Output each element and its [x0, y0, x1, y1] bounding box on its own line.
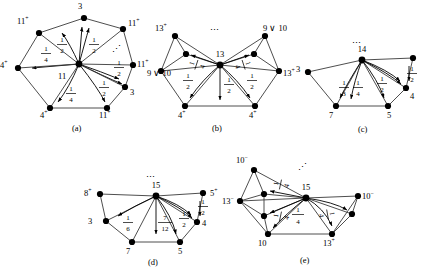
svg-text:4: 4 [317, 213, 326, 218]
hub-vertex-node [76, 61, 83, 68]
vertex-node [194, 219, 200, 225]
vertex-node [36, 30, 42, 36]
panel-b-vertex-label-2: 9 ∨ 10 [147, 68, 171, 77]
panel-d-hub-label: 15 [152, 180, 161, 190]
vertex-node [130, 62, 136, 68]
panel-a-hub-label: 11 [58, 71, 66, 81]
svg-text:12: 12 [162, 225, 170, 233]
svg-text:4: 4 [283, 183, 292, 189]
panel-a-vertex-label-4: 3 [130, 87, 134, 96]
svg-text:4: 4 [356, 90, 360, 98]
svg-text:4: 4 [44, 56, 48, 64]
panel-b-vertex-label-5: 4+ [249, 110, 257, 119]
vertex-node [97, 191, 103, 197]
svg-text:1: 1 [186, 72, 190, 80]
svg-text:4: 4 [296, 218, 300, 226]
svg-text:1: 1 [60, 36, 64, 44]
panel-d-fraction-2: 1 6 [123, 214, 133, 233]
vertex-node [183, 51, 189, 57]
panel-e-ellipsis: ⋰ [298, 162, 308, 172]
svg-text:4: 4 [69, 96, 73, 104]
vertex-node [265, 231, 271, 237]
panel-b-vertex-label-3: 13+ [283, 68, 295, 77]
panel-e-vertex-label-4: 13+ [323, 238, 335, 247]
panel-d-vertex-label-0: 8+ [84, 188, 92, 197]
vertex-node [15, 65, 21, 71]
panel-d: ⋯ 15 1 2 1 6 7 12 1 2 [84, 172, 220, 264]
svg-text:2: 2 [102, 90, 106, 98]
hub-vertex-node [153, 193, 160, 200]
svg-text:2: 2 [182, 221, 186, 229]
panel-b-vertex-label-4: 4+ [178, 110, 186, 119]
panel-a-vertex-label-0: 3 [78, 1, 82, 10]
vertex-node [47, 105, 53, 111]
panel-b-hub-label: 13 [216, 49, 225, 59]
svg-text:3: 3 [342, 90, 346, 98]
svg-text:4: 4 [233, 64, 242, 70]
svg-text:2: 2 [117, 70, 121, 78]
vertex-node [237, 198, 243, 204]
svg-text:1: 1 [410, 65, 414, 73]
svg-text:1: 1 [272, 213, 281, 219]
panel-c-fraction-2: 1 3 [339, 79, 349, 98]
panel-a-vertex-label-1: 11+ [17, 16, 28, 25]
vertex-node [129, 239, 135, 245]
vertex-node [251, 167, 257, 173]
svg-text:1: 1 [182, 210, 186, 218]
panel-e-vertex-label-0: 10− [236, 155, 248, 164]
panel-a-caption: (a) [72, 124, 81, 133]
panel-b-vertex-label-0: 13+ [155, 23, 167, 32]
panel-c-vertex-label-3: 5 [387, 110, 391, 119]
svg-text:1: 1 [328, 211, 337, 216]
svg-text:1: 1 [69, 85, 73, 93]
panel-a-fraction-5: 1 2 [114, 59, 124, 78]
svg-text:2: 2 [186, 83, 190, 91]
panel-e-vertex-label-3: 10 [258, 238, 267, 247]
panel-e-hub-label: 15 [302, 182, 311, 192]
panel-a-vertex-label-2: 11+ [128, 18, 139, 27]
panel-b-fraction-4: 1 2 [247, 72, 257, 91]
panel-a-fraction-3: 1 4 [41, 45, 51, 64]
vertex-node [120, 26, 126, 32]
panel-c-vertex-label-2: 7 [329, 110, 333, 119]
svg-text:1: 1 [296, 206, 300, 214]
svg-text:2: 2 [250, 83, 254, 91]
panel-c-hub-label: 14 [358, 44, 367, 54]
panel-c-vertex-label-1: 4 [410, 91, 414, 100]
svg-text:1: 1 [244, 60, 253, 66]
panel-a-fraction-2: 1 2 [89, 36, 99, 55]
panel-b-caption: (b) [212, 124, 222, 133]
panel-d-vertex-label-1: 5+ [210, 188, 218, 197]
hub-vertex-node [303, 195, 310, 202]
vertex-node [81, 15, 87, 21]
vertex-node [262, 33, 268, 39]
panel-e: ⋰ 15 1 4 1 4 1 4 1 4 [236, 158, 376, 254]
panel-d-caption: (d) [148, 258, 158, 267]
panel-d-vertex-label-4: 7 [126, 246, 130, 255]
vertex-node [305, 69, 311, 75]
svg-text:4: 4 [198, 63, 207, 69]
vertex-node [403, 85, 409, 91]
vertex-node [177, 239, 183, 245]
panel-c-vertex-label-0: 3 [296, 64, 300, 73]
svg-text:7: 7 [163, 214, 167, 222]
svg-text:1: 1 [188, 60, 197, 66]
panel-e-vertex-label-1: 13− [222, 196, 234, 205]
vertex-node [261, 191, 267, 197]
svg-text:2: 2 [227, 87, 231, 95]
panel-d-vertex-label-3: 4 [202, 218, 206, 227]
vertex-node [276, 68, 282, 74]
svg-text:1: 1 [227, 76, 231, 84]
svg-text:1: 1 [380, 75, 384, 83]
panel-b-ellipsis: ⋯ [210, 25, 220, 35]
panel-b-fraction-3: 1 2 [183, 72, 193, 91]
svg-text:1: 1 [342, 79, 346, 87]
svg-text:2: 2 [380, 86, 384, 94]
vertex-node [200, 190, 206, 196]
svg-text:2: 2 [410, 76, 414, 84]
svg-text:2: 2 [201, 209, 205, 217]
panel-a-vertex-label-5: 11+ [99, 110, 110, 119]
vertex-node [251, 51, 257, 57]
vertex-node [349, 211, 355, 217]
panel-d-fraction-4: 1 2 [179, 210, 189, 229]
